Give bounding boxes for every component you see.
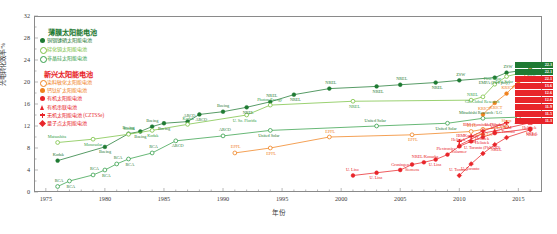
point-label: ZSW (456, 73, 465, 78)
x-tick-2010: 2010 (444, 195, 474, 202)
point-label: Kodak (124, 127, 135, 132)
point-label: KRICT (490, 106, 503, 111)
point-label: IBM (468, 140, 476, 145)
end-value-chip: 13.6 (515, 83, 553, 89)
legend-marker-diamond-icon (39, 120, 46, 127)
point-label: IBM (456, 134, 464, 139)
point-label: U. Toronto (497, 130, 515, 135)
point-label: KRICT (502, 86, 515, 91)
point-label: United Solar (435, 127, 456, 132)
legend-marker-filled-circle-icon (40, 38, 45, 43)
point-label: Boeing (217, 104, 229, 109)
y-tick-4: 4 (14, 166, 30, 173)
y-tick-28: 28 (14, 34, 30, 41)
legend-marker-filled-circle-icon (40, 88, 45, 93)
legend-item: 有机串联电池 (40, 104, 77, 110)
y-tick-16: 16 (14, 100, 30, 107)
point-label: U. Linz (346, 168, 359, 173)
point-label: First Solar (496, 80, 513, 85)
legend-item-label: 有机串联电池 (47, 104, 77, 110)
point-label: RCA (149, 145, 158, 150)
end-value: 11.5 (545, 111, 552, 117)
point-label: NREL (491, 148, 502, 153)
legend-marker-open-circle-icon (40, 80, 47, 87)
legend-item: 钙钛矿太阳能电池 (40, 87, 87, 93)
point-label: Heliatek (522, 126, 536, 131)
legend-item: 量子点太阳能电池 (40, 120, 87, 126)
end-value-chip: 12.6 (515, 90, 553, 96)
point-label: Boeing (158, 127, 170, 132)
point-label: U. Toronto (461, 167, 479, 172)
end-value: 22.3 (545, 62, 552, 68)
end-value: 12.6 (545, 90, 552, 96)
end-value: 12.6 (545, 97, 552, 103)
end-value-chip: 22.1 (515, 69, 553, 75)
legend-item: 有机太阳能电池 (40, 95, 82, 101)
x-tick-1995: 1995 (267, 195, 297, 202)
point-label: ZSW (504, 65, 513, 70)
x-tick-2000: 2000 (326, 195, 356, 202)
y-tick-12: 12 (14, 122, 30, 129)
legend-item-label: 钙钛矿太阳能电池 (47, 87, 87, 93)
legend-item-label: 量子点太阳能电池 (47, 120, 87, 126)
point-label: ARCO (195, 118, 207, 123)
point-label: U. Linz (429, 163, 442, 168)
point-label: U. Linz (370, 176, 383, 181)
point-label: NREL/Konarka (412, 155, 439, 160)
legend-item: 碲化镉太阳能电池 (40, 46, 87, 52)
legend-item-label: 染料敏化太阳能电池 (47, 79, 92, 85)
point-label: NREL (467, 93, 478, 98)
point-label: ARCO (172, 144, 184, 149)
point-label: Photon Energy (257, 98, 282, 103)
legend-marker-open-circle-icon (40, 47, 47, 54)
x-tick-1980: 1980 (90, 195, 120, 202)
point-label: Matsushita (48, 135, 66, 140)
point-label: U. So. Florida (233, 119, 257, 124)
point-label: Kodak (147, 134, 158, 139)
y-tick-20: 20 (14, 78, 30, 85)
point-label: RCA (66, 185, 75, 190)
point-label: EPFL (266, 152, 276, 157)
point-label: EPFL (325, 130, 335, 135)
point-label: Kodak (183, 117, 194, 122)
point-label: RCA (55, 179, 64, 184)
end-value: 13.6 (545, 83, 552, 89)
point-label: RCA (90, 167, 99, 172)
point-label: United Solar (365, 119, 386, 124)
x-axis-label: 年份 (0, 207, 557, 217)
point-label: NREL (396, 77, 407, 82)
end-value-chip: 11.3 (515, 118, 553, 124)
x-tick-1975: 1975 (31, 195, 61, 202)
point-label: NREL (526, 133, 537, 138)
x-tick-1990: 1990 (208, 195, 238, 202)
legend-group1-title: 薄膜太阳能电池 (48, 27, 97, 37)
point-label: Siemens (405, 168, 419, 173)
end-value: 22.1 (545, 69, 552, 75)
x-tick-1985: 1985 (149, 195, 179, 202)
point-label: Boeing (146, 119, 158, 124)
end-value-chip: 22.1 (515, 76, 553, 82)
point-label: NREL (373, 90, 384, 95)
end-value-chip: 22.3 (515, 62, 553, 68)
point-label: NREL (432, 86, 443, 91)
y-tick-0: 0 (14, 188, 30, 195)
point-label: Boeing (99, 150, 111, 155)
legend-item: 无机太阳能电池 (CZTSSe) (40, 112, 104, 118)
y-tick-24: 24 (14, 56, 30, 63)
point-label: NREL (290, 98, 301, 103)
legend-marker-plus-icon (40, 113, 45, 118)
point-label: Monosolar (84, 143, 102, 148)
end-value-chip: 11.9 (515, 104, 553, 110)
legend-marker-filled-circle-icon (40, 96, 45, 101)
point-label: United Solar (258, 134, 279, 139)
solar-cell-efficiency-chart: 光电转化效率/% 年份 048121620242832 197519801985… (0, 0, 557, 234)
end-value: 11.9 (545, 104, 552, 110)
point-label: ARCO (219, 128, 231, 133)
point-label: Kodak (53, 153, 64, 158)
legend-item-label: 碲化镉太阳能电池 (47, 46, 87, 52)
legend-group2-title: 新兴太阳能电池 (44, 69, 93, 79)
point-label: KRICT (478, 107, 491, 112)
legend-marker-triangle-icon (40, 105, 44, 110)
legend-item-label: 无机太阳能电池 (CZTSSe) (47, 112, 104, 118)
legend-item: 非晶硅太阳能电池 (40, 55, 87, 61)
